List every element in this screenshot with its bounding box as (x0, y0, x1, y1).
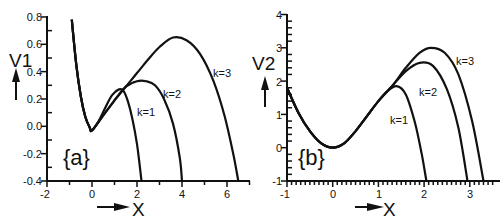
panel-b-ytick-2: 2 (276, 76, 282, 88)
right-arrow-icon (355, 203, 384, 211)
panel-a-ytick-5: -0.2 (23, 148, 42, 160)
panel-b-curve-label-k2: k=2 (419, 86, 437, 98)
panel-a-ytick-0: 0.8 (27, 11, 42, 23)
panel-a-ytick-4: 0.0 (27, 120, 42, 132)
panel-b-label: {b} (298, 145, 325, 170)
panel-b: 4 3 2 1 0 -1 -1 0 1 2 3 V2 X {b} k=1 k=2… (252, 9, 500, 220)
panel-a-curve-label-k2: k=2 (163, 88, 181, 100)
panel-a-ytick-3: 0.2 (27, 93, 42, 105)
right-arrow-icon (97, 203, 130, 211)
panel-b-y-title: V2 (252, 53, 275, 74)
panel-a-curve-label-k1: k=1 (137, 106, 155, 118)
panel-a-curves (72, 20, 239, 181)
panel-a-xtick-0: -2 (40, 188, 50, 200)
panel-b-xtick-1: 0 (330, 188, 336, 200)
panel-a-y-title: V1 (9, 50, 32, 71)
panel-a: 0.8 0.6 0.4 0.2 0.0 -0.2 -0.4 -2 0 2 4 6… (9, 11, 250, 220)
panel-b-ytick-5: -1 (272, 175, 282, 187)
panel-b-curve-label-k1: k=1 (390, 114, 408, 126)
panel-b-xtick-0: -1 (280, 188, 290, 200)
panel-b-ytick-0: 4 (276, 9, 282, 21)
panel-b-xtick-3: 2 (421, 188, 427, 200)
panel-b-xtick-2: 1 (376, 188, 382, 200)
panel-b-curve-label-k3: k=3 (456, 55, 474, 67)
panel-b-xtick-4: 3 (467, 188, 473, 200)
panel-a-x-title: X (132, 199, 145, 220)
panel-b-ytick-4: 0 (276, 142, 282, 154)
up-arrow-icon (12, 68, 20, 100)
panel-a-ytick-6: -0.4 (23, 175, 42, 187)
panel-a-xtick-4: 6 (224, 188, 230, 200)
chart-figure: 0.8 0.6 0.4 0.2 0.0 -0.2 -0.4 -2 0 2 4 6… (0, 0, 502, 221)
up-arrow-icon (261, 76, 269, 107)
panel-b-ytick-1: 3 (276, 42, 282, 54)
panel-a-curve-label-k3: k=3 (213, 67, 231, 79)
panel-b-ytick-3: 1 (276, 109, 282, 121)
panel-b-x-title: X (383, 199, 396, 220)
panel-a-label: {a} (63, 145, 90, 170)
panel-a-ytick-1: 0.6 (27, 38, 42, 50)
curve-k3 (72, 20, 239, 181)
panel-a-xtick-1: 0 (89, 188, 95, 200)
panel-a-xtick-3: 4 (179, 188, 185, 200)
